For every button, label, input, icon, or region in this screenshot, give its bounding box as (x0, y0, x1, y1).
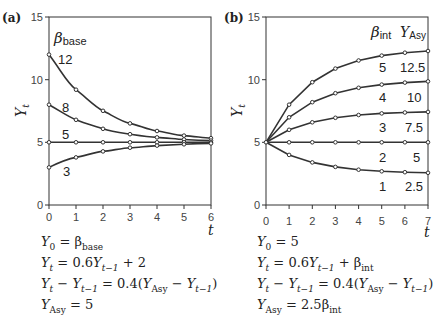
panel-a-xtick: 2 (100, 211, 106, 223)
asym-label-12.5: 12.5 (400, 60, 425, 75)
panel-a-xtick: 1 (73, 211, 79, 223)
equation-line: Y0 = βbase (41, 234, 217, 255)
asym-label-5: 5 (413, 150, 420, 165)
panel-a-ytick: 0 (37, 199, 43, 211)
series-label-beta1: 1 (379, 179, 386, 194)
series-label-3: 3 (63, 164, 70, 179)
equation-line: Yt = 0.6Yt−1 + βint (257, 255, 433, 276)
series-label-beta4: 4 (379, 90, 386, 105)
panel-a-xtick: 0 (46, 211, 52, 223)
equation-line: Yt = 0.6Yt−1 + 2 (41, 255, 217, 276)
panel-b-ytick: 10 (248, 74, 260, 86)
panel-a-ytick: 10 (31, 74, 43, 86)
panel-b-ytick: 15 (248, 11, 260, 23)
panel-b-equations: Y0 = 5 Yt = 0.6Yt−1 + βint Yt − Yt−1 = 0… (257, 234, 433, 318)
panel-a-label: (a) (2, 11, 21, 25)
equation-line: Yt − Yt−1 = 0.4(YAsy − Yt−1) (41, 276, 217, 297)
panel-a-ytick: 15 (31, 11, 43, 23)
series-label-5: 5 (62, 127, 69, 142)
series-label-beta2: 2 (379, 150, 386, 165)
panel-a-ytick: 5 (37, 136, 43, 148)
equation-line: YAsy = 2.5βint (257, 297, 433, 318)
panel-b-legend-col2: YAsy (400, 24, 426, 41)
equation-line: Yt − Yt−1 = 0.4(YAsy − Yt−1) (257, 276, 433, 297)
equation-line: Y0 = 5 (257, 234, 433, 255)
panel-b-xtick: 5 (379, 215, 385, 227)
panel-a-xtick: 5 (181, 211, 187, 223)
panel-b-y-label: Yt (229, 104, 247, 117)
panel-a-y-label: Yt (13, 104, 31, 117)
panel-b-xtick: 1 (286, 215, 292, 227)
panel-a-y-axis: 15 10 5 0 Yt (13, 11, 49, 211)
panel-a-legend-title: βbase (53, 29, 87, 47)
panel-b-ytick: 5 (254, 136, 260, 148)
panel-b-xtick: 0 (263, 215, 269, 227)
series-label-8: 8 (62, 100, 69, 115)
panel-b-label: (b) (224, 11, 244, 25)
series-label-beta3: 3 (379, 120, 386, 135)
series-line-beta1 (266, 142, 428, 173)
panel-b-y-axis: 15 10 5 0 Yt (229, 11, 266, 211)
asym-label-7.5: 7.5 (405, 120, 423, 135)
series-label-beta5: 5 (379, 60, 386, 75)
panel-a-xtick: 4 (154, 211, 160, 223)
panel-a-xtick: 3 (127, 211, 133, 223)
panel-b-xtick: 6 (402, 215, 408, 227)
asym-label-2.5: 2.5 (405, 179, 423, 194)
panel-a-series-lines (49, 55, 211, 168)
panel-a-equations: Y0 = βbase Yt = 0.6Yt−1 + 2 Yt − Yt−1 = … (41, 234, 217, 318)
asym-label-10: 10 (407, 90, 421, 105)
panel-b-xtick: 4 (356, 215, 362, 227)
series-label-12: 12 (58, 52, 72, 67)
panel-b-xtick: 3 (332, 215, 338, 227)
equation-line: YAsy = 5 (41, 297, 217, 318)
panel-b-ytick: 0 (254, 199, 260, 211)
panel-a: (a) 15 10 5 0 Yt 0 1 2 3 4 (2, 11, 214, 238)
panel-a-series-markers (47, 53, 213, 169)
panel-b: (b) 15 10 5 0 Yt 0 1 2 3 4 5 (224, 11, 431, 240)
panel-b-legend-col1: βint (370, 23, 391, 41)
panel-b-xtick: 2 (309, 215, 315, 227)
